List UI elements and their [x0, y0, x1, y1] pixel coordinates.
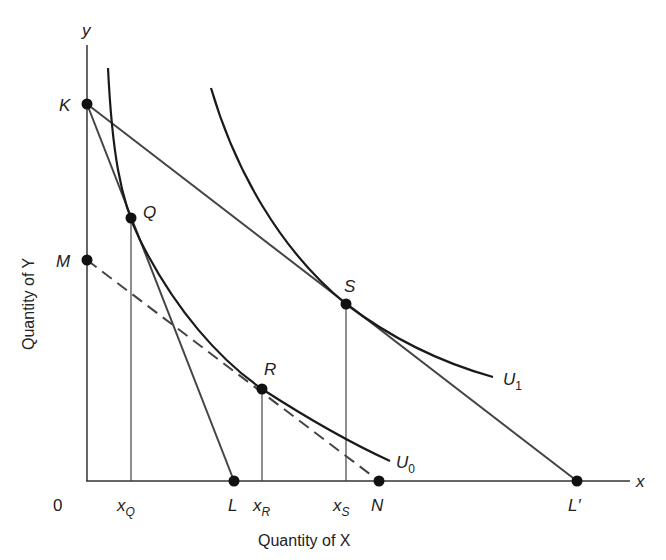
label-xr: xR: [252, 496, 271, 519]
y-axis-letter: y: [81, 21, 92, 40]
point-k: [82, 99, 93, 110]
point-l: [229, 476, 240, 487]
x-axis-letter: x: [635, 472, 645, 491]
point-s: [341, 299, 352, 310]
origin-label: 0: [53, 496, 62, 515]
label-u1: U1: [503, 370, 522, 393]
point-m: [82, 255, 93, 266]
label-m: M: [56, 252, 71, 271]
label-u0: U0: [396, 453, 415, 476]
label-xq: xQ: [116, 496, 135, 519]
point-r: [257, 384, 268, 395]
label-n: N: [371, 496, 384, 515]
label-r: R: [264, 360, 276, 379]
label-k: K: [59, 96, 71, 115]
label-l: L: [228, 496, 237, 515]
label-s: S: [344, 277, 356, 296]
point-lprime: [572, 476, 583, 487]
label-xs: xS: [332, 496, 350, 519]
x-axis-title: Quantity of X: [258, 532, 351, 549]
diagram-canvas: y x 0 K M Q R S L N L′ xQ xR xS U0 U1 Qu…: [0, 0, 666, 560]
point-q: [126, 213, 137, 224]
point-n: [374, 476, 385, 487]
y-axis-title: Quantity of Y: [20, 257, 37, 350]
label-lprime: L′: [568, 496, 581, 515]
label-q: Q: [143, 203, 156, 222]
